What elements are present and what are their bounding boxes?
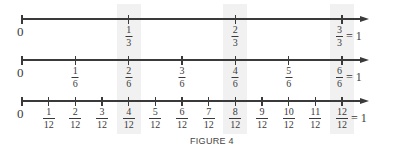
tick-mark — [235, 56, 236, 65]
fraction-label: 812 — [229, 107, 241, 130]
tick-mark — [288, 56, 289, 65]
fraction-label: 612 — [176, 107, 188, 130]
number-line-axis — [21, 59, 362, 61]
tick-mark — [155, 97, 156, 106]
fraction-label: 66= 1 — [336, 66, 362, 89]
fraction-label: 912 — [256, 107, 268, 130]
tick-mark — [21, 15, 22, 24]
zero-label: 0 — [17, 106, 24, 122]
number-line-axis — [21, 18, 362, 20]
tick-mark — [75, 56, 76, 65]
fraction-label: 1012 — [283, 107, 295, 130]
arrow-head-icon — [360, 57, 369, 63]
tick-mark — [341, 15, 342, 24]
fraction-label: 46 — [232, 66, 239, 89]
tick-mark — [315, 97, 316, 106]
fraction-label: 26 — [125, 66, 132, 89]
fraction-label: 23 — [232, 25, 239, 48]
fraction-label: 212 — [69, 107, 81, 130]
tick-mark — [101, 97, 102, 106]
tick-mark — [181, 56, 182, 65]
tick-mark — [128, 15, 129, 24]
tick-mark — [341, 56, 342, 65]
number-line-axis — [21, 100, 362, 102]
fraction-label: 1212= 1 — [336, 107, 367, 130]
zero-label: 0 — [17, 24, 24, 40]
tick-mark — [235, 97, 236, 106]
fraction-label: 512 — [149, 107, 161, 130]
tick-mark — [261, 97, 262, 106]
tick-mark — [48, 97, 49, 106]
fraction-label: 56 — [285, 66, 292, 89]
figure-caption: FIGURE 4 — [190, 136, 234, 146]
tick-mark — [75, 97, 76, 106]
fraction-label: 33= 1 — [336, 25, 362, 48]
zero-label: 0 — [17, 65, 24, 81]
fraction-label: 36 — [179, 66, 186, 89]
tick-mark — [235, 15, 236, 24]
tick-mark — [21, 97, 22, 106]
fraction-label: 1112 — [309, 107, 321, 130]
tick-mark — [21, 56, 22, 65]
fraction-label: 312 — [96, 107, 108, 130]
tick-mark — [128, 97, 129, 106]
tick-mark — [341, 97, 342, 106]
tick-mark — [288, 97, 289, 106]
fraction-label: 412 — [123, 107, 135, 130]
fraction-label: 13 — [125, 25, 132, 48]
fraction-label: 112 — [43, 107, 55, 130]
tick-mark — [208, 97, 209, 106]
tick-mark — [181, 97, 182, 106]
arrow-head-icon — [360, 98, 369, 104]
fraction-label: 16 — [72, 66, 79, 89]
arrow-head-icon — [360, 16, 369, 22]
tick-mark — [128, 56, 129, 65]
fraction-label: 712 — [203, 107, 215, 130]
